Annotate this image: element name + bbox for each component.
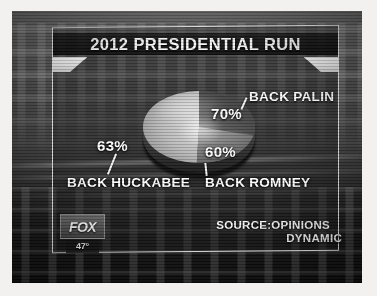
fox-logo: FOX [60,214,105,239]
leader-line-back-huckabee [107,154,117,175]
tv-screen-capture: 2012 PRESIDENTIAL RUN GOP CANDIDATES [12,11,362,283]
pie-category-label-back-romney: BACK ROMNEY [205,175,310,190]
graphic-title: 2012 PRESIDENTIAL RUN [90,35,301,54]
graphic-subtitle: GOP CANDIDATES [149,59,242,70]
fox-logo-text: FOX [69,219,96,235]
pie-category-label-back-huckabee: BACK HUCKABEE [67,175,190,190]
pie-category-label-back-palin: BACK PALIN [249,89,334,104]
graphic-subtitle-band: GOP CANDIDATES [53,57,338,72]
graphic-title-bar: 2012 PRESIDENTIAL RUN [53,33,338,55]
source-credit-line-1: SOURCE:OPINIONS [216,219,330,232]
pie-value-label-back-huckabee: 63% [97,137,128,154]
pie-chart [141,89,257,181]
temperature-value: 47° [76,241,89,251]
pie-value-label-back-romney: 60% [205,143,236,160]
photo-border: 2012 PRESIDENTIAL RUN GOP CANDIDATES [0,0,377,296]
pie-value-label-back-palin: 70% [211,105,242,122]
network-bug: FOX 47° [60,214,105,256]
temperature-readout: 47° [66,239,99,253]
subtitle-band-fill [84,57,306,72]
source-credit-line-2: DYNAMIC [216,232,342,245]
source-credit: SOURCE:OPINIONS DYNAMIC [216,219,330,245]
